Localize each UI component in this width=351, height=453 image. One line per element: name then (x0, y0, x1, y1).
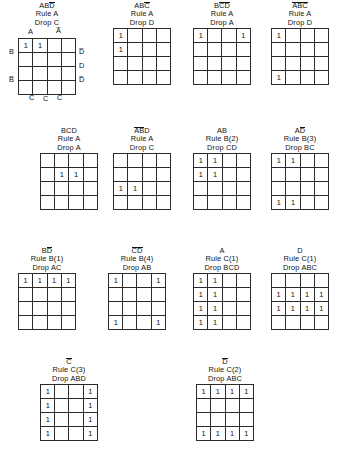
kmap-cell[interactable]: 1 (286, 195, 300, 209)
kmap-cell[interactable] (114, 70, 128, 84)
kmap-cell[interactable]: 1 (272, 153, 286, 167)
kmap-cell[interactable]: 1 (19, 38, 33, 52)
kmap-cell[interactable] (211, 412, 225, 426)
kmap-cell[interactable] (222, 167, 236, 181)
kmap-cell[interactable] (19, 66, 33, 80)
kmap-cell[interactable]: 1 (83, 426, 97, 440)
kmap-cell[interactable]: 1 (55, 167, 69, 181)
kmap-cell[interactable]: 1 (33, 273, 47, 287)
kmap-cell[interactable] (286, 42, 300, 56)
kmap-cell[interactable] (272, 56, 286, 70)
kmap-cell[interactable]: 1 (41, 426, 55, 440)
kmap-cell[interactable]: 1 (83, 398, 97, 412)
kmap-cell[interactable] (300, 153, 314, 167)
kmap-cell[interactable]: 1 (47, 273, 61, 287)
kmap-cell[interactable] (300, 28, 314, 42)
kmap-cell[interactable] (208, 181, 222, 195)
kmap-cell[interactable]: 1 (83, 384, 97, 398)
kmap-cell[interactable]: 1 (109, 273, 123, 287)
kmap-cell[interactable] (286, 28, 300, 42)
kmap-cell[interactable] (69, 195, 83, 209)
kmap-cell[interactable]: 1 (197, 384, 211, 398)
kmap-cell[interactable] (33, 52, 47, 66)
kmap-cell[interactable] (300, 56, 314, 70)
kmap-cell[interactable] (314, 315, 328, 329)
kmap-cell[interactable] (137, 287, 151, 301)
kmap-cell[interactable]: 1 (83, 412, 97, 426)
kmap-cell[interactable]: 1 (114, 28, 128, 42)
kmap-cell[interactable] (286, 56, 300, 70)
kmap-cell[interactable] (236, 153, 250, 167)
kmap-cell[interactable]: 1 (236, 28, 250, 42)
kmap-cell[interactable] (222, 287, 236, 301)
kmap-cell[interactable] (208, 70, 222, 84)
kmap-cell[interactable] (236, 70, 250, 84)
kmap-cell[interactable] (69, 153, 83, 167)
kmap-cell[interactable] (61, 315, 75, 329)
kmap-cell[interactable] (222, 273, 236, 287)
kmap-cell[interactable] (55, 412, 69, 426)
kmap-cell[interactable] (61, 52, 75, 66)
kmap-cell[interactable] (286, 181, 300, 195)
kmap-cell[interactable] (222, 315, 236, 329)
kmap-cell[interactable]: 1 (239, 384, 253, 398)
kmap-cell[interactable] (123, 287, 137, 301)
kmap-cell[interactable]: 1 (239, 426, 253, 440)
kmap-cell[interactable]: 1 (194, 287, 208, 301)
kmap-cell[interactable] (19, 287, 33, 301)
kmap-cell[interactable] (236, 287, 250, 301)
kmap-cell[interactable] (208, 28, 222, 42)
kmap-cell[interactable] (55, 181, 69, 195)
kmap-cell[interactable]: 1 (33, 38, 47, 52)
kmap-cell[interactable] (314, 273, 328, 287)
kmap-cell[interactable] (55, 384, 69, 398)
kmap-cell[interactable] (156, 153, 170, 167)
kmap-cell[interactable]: 1 (114, 181, 128, 195)
kmap-cell[interactable] (151, 287, 165, 301)
kmap-cell[interactable]: 1 (211, 426, 225, 440)
kmap-cell[interactable] (236, 273, 250, 287)
kmap-cell[interactable] (19, 315, 33, 329)
kmap-cell[interactable]: 1 (300, 301, 314, 315)
kmap-cell[interactable] (41, 195, 55, 209)
kmap-cell[interactable] (61, 66, 75, 80)
kmap-cell[interactable]: 1 (286, 287, 300, 301)
kmap-cell[interactable] (33, 315, 47, 329)
kmap-cell[interactable] (128, 56, 142, 70)
kmap-cell[interactable] (300, 70, 314, 84)
kmap-cell[interactable] (236, 315, 250, 329)
kmap-cell[interactable] (239, 398, 253, 412)
kmap-cell[interactable] (47, 301, 61, 315)
kmap-cell[interactable]: 1 (151, 315, 165, 329)
kmap-cell[interactable] (197, 412, 211, 426)
kmap-cell[interactable]: 1 (208, 287, 222, 301)
kmap-cell[interactable]: 1 (194, 167, 208, 181)
kmap-cell[interactable] (300, 167, 314, 181)
kmap-cell[interactable]: 1 (41, 384, 55, 398)
kmap-cell[interactable] (194, 42, 208, 56)
kmap-cell[interactable]: 1 (109, 315, 123, 329)
kmap-cell[interactable] (83, 181, 97, 195)
kmap-cell[interactable] (33, 287, 47, 301)
kmap-cell[interactable] (19, 52, 33, 66)
kmap-cell[interactable] (137, 315, 151, 329)
kmap-cell[interactable] (69, 384, 83, 398)
kmap-cell[interactable] (142, 195, 156, 209)
kmap-cell[interactable] (272, 42, 286, 56)
kmap-cell[interactable]: 1 (194, 153, 208, 167)
kmap-cell[interactable]: 1 (272, 301, 286, 315)
kmap-cell[interactable] (137, 301, 151, 315)
kmap-cell[interactable]: 1 (61, 273, 75, 287)
kmap-cell[interactable]: 1 (314, 301, 328, 315)
kmap-cell[interactable] (225, 398, 239, 412)
kmap-cell[interactable] (194, 70, 208, 84)
kmap-cell[interactable] (300, 315, 314, 329)
kmap-cell[interactable]: 1 (194, 28, 208, 42)
kmap-cell[interactable]: 1 (208, 273, 222, 287)
kmap-cell[interactable]: 1 (314, 287, 328, 301)
kmap-cell[interactable]: 1 (208, 153, 222, 167)
kmap-cell[interactable] (236, 56, 250, 70)
kmap-cell[interactable] (142, 28, 156, 42)
kmap-cell[interactable] (194, 181, 208, 195)
kmap-cell[interactable] (286, 315, 300, 329)
